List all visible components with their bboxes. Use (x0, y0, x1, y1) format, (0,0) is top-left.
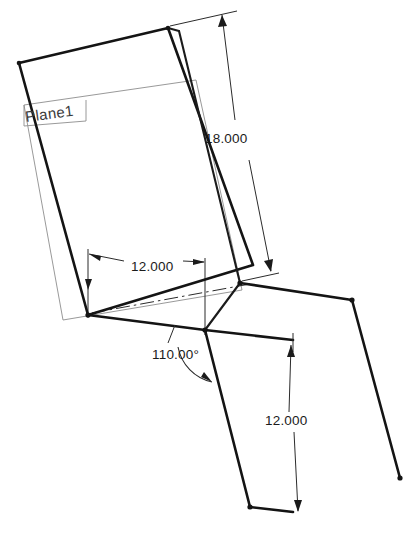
arrowhead-18-bottom (264, 259, 273, 272)
upper-panel-thickness-edge (179, 31, 240, 283)
dimension-label-angle[interactable]: 110.00° (152, 347, 199, 362)
vertex-bottom (247, 504, 252, 509)
dimension-label-12-top[interactable]: 12.000 (131, 259, 174, 274)
arrowhead-12bot-bottom (294, 500, 302, 512)
lower-panel-right-edge[interactable] (240, 283, 400, 478)
lower-panel-bottom-edge (250, 507, 293, 512)
bend-connection-edge (205, 283, 240, 330)
vertex-top-right (166, 26, 171, 31)
arrowhead-18-top (218, 15, 227, 27)
vertex-top-left (17, 61, 22, 66)
arrowhead-12top-down (85, 279, 92, 290)
dim-line-18-upper (222, 15, 235, 120)
angle-leader-line (168, 325, 175, 343)
dim-line-18-lower (249, 160, 271, 271)
vertex-bend-left (202, 327, 207, 332)
arrowhead-12top-right (193, 259, 205, 265)
vertex-bend-right (237, 280, 242, 285)
bend-edge-line (205, 330, 293, 340)
arrowhead-12top-left (89, 254, 101, 261)
vertex-right-far (349, 297, 354, 302)
cad-drawing-canvas: 18.000 12.000 (0, 0, 420, 543)
dim-line-12bot-lower (294, 432, 298, 511)
vertex-bottom-left (85, 312, 90, 317)
vertex-bottom-right-far (397, 475, 402, 480)
dimension-label-12-bottom[interactable]: 12.000 (265, 413, 308, 428)
bend-center-line (92, 284, 250, 313)
dimension-label-18[interactable]: 18.000 (205, 131, 248, 146)
cad-drawing-svg: 18.000 12.000 (0, 0, 420, 543)
ext-line-18-top (170, 11, 237, 26)
arrowhead-12bot-top (287, 345, 295, 357)
lower-panel-left-edge[interactable] (88, 315, 250, 507)
ext-line-18-bottom (242, 273, 279, 281)
